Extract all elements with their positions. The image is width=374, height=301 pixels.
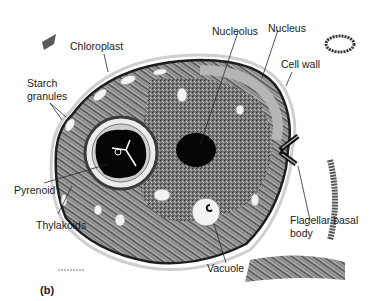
nucleolus bbox=[176, 133, 216, 167]
label-vacuole: Vacuole bbox=[207, 263, 244, 274]
pyrenoid bbox=[96, 130, 147, 179]
label-nucleolus: Nucleolus bbox=[212, 26, 258, 37]
panel-label: (b) bbox=[40, 284, 54, 296]
label-chloroplast: Chloroplast bbox=[70, 41, 123, 52]
label-nucleus: Nucleus bbox=[268, 23, 306, 34]
label-starch-line1: Starch bbox=[27, 78, 57, 89]
micrograph-figure: Chloroplast Starch granules Nucleolus Nu… bbox=[0, 0, 374, 301]
label-thylakoids: Thylakoids bbox=[36, 220, 86, 231]
cell-micrograph-image bbox=[0, 0, 374, 301]
label-pyrenoid: Pyrenoid bbox=[14, 185, 55, 196]
label-flagellar-line1: Flagellar basal bbox=[290, 215, 358, 226]
label-cell-wall: Cell wall bbox=[281, 59, 320, 70]
label-starch-line2: granules bbox=[27, 91, 67, 102]
vacuole bbox=[192, 198, 220, 226]
label-flagellar-line2: body bbox=[290, 228, 313, 239]
